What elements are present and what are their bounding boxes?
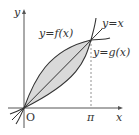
line-y-equals-x (12, 29, 102, 120)
pi-label: π (86, 111, 95, 124)
f-curve-label: y=f(x) (38, 27, 73, 40)
y-axis-arrow-icon (22, 9, 26, 14)
x-axis-label: x (116, 111, 123, 124)
line-label: y=x (101, 17, 124, 30)
x-axis-arrow-icon (118, 106, 123, 110)
diagram: y x O π y=f(x) y=x y=g(x) (0, 0, 139, 135)
origin-label: O (26, 111, 35, 124)
g-curve-label: y=g(x) (92, 46, 130, 59)
y-axis-label: y (13, 6, 21, 19)
